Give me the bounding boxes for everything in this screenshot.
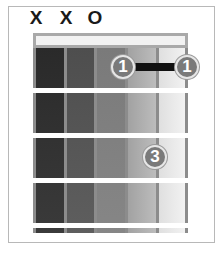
fretboard-column-2 [65, 48, 95, 233]
string-marker-muted-5: X [56, 8, 76, 28]
string-2 [156, 48, 159, 233]
string-marker-muted-6: X [26, 8, 46, 28]
string-4 [94, 48, 97, 233]
finger-dot-string2-fret1: 1 [111, 55, 135, 79]
nut [33, 33, 188, 48]
fretboard [33, 48, 188, 233]
string-6 [33, 48, 36, 233]
fretboard-column-1 [33, 48, 65, 233]
string-5 [64, 48, 67, 233]
string-marker-open-4: O [85, 8, 105, 28]
finger-dot-string2-fret3: 3 [143, 145, 167, 169]
finger-dot-string1-fret1: 1 [175, 55, 199, 79]
fret-line-2 [33, 133, 188, 138]
barre-bar [130, 63, 180, 71]
fret-line-3 [33, 178, 188, 183]
fret-line-1 [33, 88, 188, 93]
fret-line-4 [33, 223, 188, 228]
